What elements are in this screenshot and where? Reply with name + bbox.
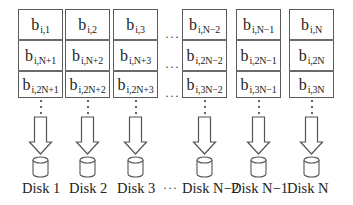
label-ellipsis: ··· xyxy=(163,182,178,194)
striping-diagram: bi,1bi,N+1bi,2N+1bi,2bi,N+2bi,2N+2bi,3bi… xyxy=(0,0,353,205)
block-symbol: b xyxy=(187,77,195,93)
block-subscript: i,N xyxy=(310,24,322,35)
down-arrow-icon xyxy=(30,117,52,154)
block-symbol: b xyxy=(70,77,78,93)
block-symbol: b xyxy=(187,48,195,64)
block-symbol: b xyxy=(72,48,80,64)
disk-label: Disk 2 xyxy=(69,181,107,196)
block-subscript: i,2N+3 xyxy=(127,84,154,95)
block-subscript: i,N+2 xyxy=(81,55,103,66)
row-separator xyxy=(65,70,110,72)
disk-icon xyxy=(251,157,266,177)
block-symbol: b xyxy=(23,77,31,93)
block-subscript: i,2N−2 xyxy=(196,55,223,66)
block-cell: bi,2N−2 xyxy=(182,40,227,71)
down-arrow-icon xyxy=(194,117,216,154)
row-separator xyxy=(18,39,63,41)
disk-icon xyxy=(33,157,48,177)
block-cell: bi,N+1 xyxy=(18,40,63,71)
row-separator xyxy=(289,70,334,72)
block-subscript: i,2N xyxy=(308,55,325,66)
disk-icon xyxy=(304,157,319,177)
block-cell: bi,1 xyxy=(18,9,63,40)
block-subscript: i,1 xyxy=(40,24,50,35)
disk-icon xyxy=(128,157,143,177)
block-cell: bi,2 xyxy=(65,9,110,40)
down-arrow-icon xyxy=(248,117,270,154)
block-cell: bi,N+3 xyxy=(113,40,158,71)
block-cell: bi,3 xyxy=(113,9,158,40)
block-subscript: i,2N−1 xyxy=(250,55,277,66)
row-separator xyxy=(236,39,281,41)
down-arrow-icon xyxy=(125,117,147,154)
block-cell: bi,N−1 xyxy=(236,9,281,40)
disk-label: Disk N xyxy=(287,181,329,196)
block-symbol: b xyxy=(241,48,249,64)
row-separator xyxy=(182,70,227,72)
row-separator xyxy=(113,39,158,41)
block-cell: bi,3N−1 xyxy=(236,71,281,98)
block-symbol: b xyxy=(78,17,86,33)
block-symbol: b xyxy=(243,17,251,33)
block-subscript: i,3 xyxy=(135,24,145,35)
disk-label: Disk 1 xyxy=(22,181,60,196)
block-subscript: i,3N−2 xyxy=(196,84,223,95)
block-cell: bi,2N xyxy=(289,40,334,71)
block-symbol: b xyxy=(189,17,197,33)
block-subscript: i,N−2 xyxy=(198,24,220,35)
block-cell: bi,2N+3 xyxy=(113,71,158,98)
disk-label: Disk N−1 xyxy=(231,181,288,196)
block-cell: bi,3N xyxy=(289,71,334,98)
row-separator xyxy=(182,39,227,41)
block-symbol: b xyxy=(301,17,309,33)
block-symbol: b xyxy=(118,77,126,93)
row-separator xyxy=(236,70,281,72)
block-symbol: b xyxy=(299,77,307,93)
horizontal-ellipsis: ··· xyxy=(165,61,180,73)
block-cell: bi,2N−1 xyxy=(236,40,281,71)
block-symbol: b xyxy=(25,48,33,64)
block-cell: bi,N−2 xyxy=(182,9,227,40)
block-symbol: b xyxy=(241,77,249,93)
block-subscript: i,N−1 xyxy=(252,24,274,35)
block-subscript: i,2N+1 xyxy=(32,84,59,95)
block-symbol: b xyxy=(120,48,128,64)
block-subscript: i,3N−1 xyxy=(250,84,277,95)
row-separator xyxy=(65,39,110,41)
disk-icon xyxy=(197,157,212,177)
block-symbol: b xyxy=(299,48,307,64)
block-symbol: b xyxy=(126,17,134,33)
row-separator xyxy=(18,70,63,72)
block-cell: bi,N xyxy=(289,9,334,40)
block-symbol: b xyxy=(31,17,39,33)
row-separator xyxy=(289,39,334,41)
horizontal-ellipsis: ··· xyxy=(165,31,180,43)
disk-label: Disk 3 xyxy=(117,181,155,196)
block-subscript: i,3N xyxy=(308,84,325,95)
block-subscript: i,N+1 xyxy=(34,55,56,66)
disk-icon xyxy=(80,157,95,177)
block-cell: bi,2N+2 xyxy=(65,71,110,98)
horizontal-ellipsis: ··· xyxy=(165,90,180,102)
block-subscript: i,2 xyxy=(87,24,97,35)
block-subscript: i,2N+2 xyxy=(79,84,106,95)
down-arrow-icon xyxy=(301,117,323,154)
block-subscript: i,N+3 xyxy=(129,55,151,66)
row-separator xyxy=(113,70,158,72)
block-cell: bi,2N+1 xyxy=(18,71,63,98)
down-arrow-icon xyxy=(77,117,99,154)
block-cell: bi,N+2 xyxy=(65,40,110,71)
block-cell: bi,3N−2 xyxy=(182,71,227,98)
